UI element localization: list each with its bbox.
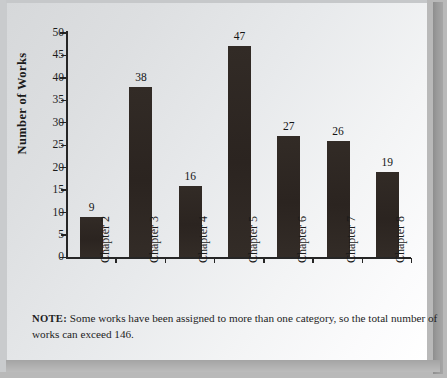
x-category-chapter-2: Chapter 2: [98, 167, 113, 263]
x-category-chapter-6: Chapter 6: [295, 167, 310, 263]
y-tick-label-5: 5: [24, 229, 64, 241]
y-tick-label-45: 45: [24, 49, 64, 61]
y-tick-label-50: 50: [24, 27, 64, 39]
x-tick-3: [214, 258, 215, 263]
x-category-chapter-5: Chapter 5: [246, 167, 261, 263]
bar-value-label-2: 38: [121, 72, 161, 84]
x-category-chapter-4: Chapter 4: [196, 167, 211, 263]
y-tick-label-25: 25: [24, 139, 64, 151]
note-text: Some works have been assigned to more th…: [32, 312, 437, 340]
x-tick-4: [263, 258, 264, 263]
y-tick-label-15: 15: [24, 184, 64, 196]
x-category-chapter-8: Chapter 8: [393, 167, 408, 263]
x-tick-5: [312, 258, 313, 263]
x-category-chapter-7: Chapter 7: [344, 167, 359, 263]
x-tick-7: [411, 258, 412, 263]
x-category-chapter-3: Chapter 3: [147, 167, 162, 263]
note-prefix: NOTE:: [32, 313, 67, 324]
x-tick-1: [115, 258, 116, 263]
bar-value-label-4: 47: [220, 31, 260, 43]
bar-value-label-5: 27: [269, 121, 309, 133]
bar-value-label-6: 26: [318, 126, 358, 138]
scanned-page: Number of Works 05101520253035404550 938…: [0, 0, 447, 378]
plot-area: 05101520253035404550 9381647272619 Chapt…: [66, 31, 411, 259]
figure-note: NOTE: Some works have been assigned to m…: [6, 300, 447, 343]
x-tick-6: [362, 258, 363, 263]
y-axis-line: [66, 31, 68, 259]
page-bottom-edge-shadow: [6, 360, 440, 372]
x-axis-line: [66, 257, 411, 259]
y-tick-label-10: 10: [24, 207, 64, 219]
y-tick-label-30: 30: [24, 117, 64, 129]
bar-chart: Number of Works 05101520253035404550 938…: [0, 0, 421, 318]
x-tick-2: [165, 258, 166, 263]
y-tick-label-20: 20: [24, 162, 64, 174]
y-tick-label-35: 35: [24, 94, 64, 106]
y-tick-label-40: 40: [24, 72, 64, 84]
y-tick-label-0: 0: [24, 251, 64, 263]
